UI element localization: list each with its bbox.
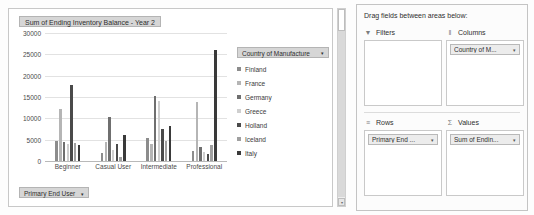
- vertical-scrollbar[interactable]: ▾: [337, 8, 346, 207]
- bar[interactable]: [105, 142, 107, 161]
- y-axis-tick-label: 20000: [9, 72, 41, 79]
- legend-item-label: Germany: [245, 94, 272, 101]
- legend-item-label: Iceland: [245, 136, 266, 143]
- chevron-down-icon: ▾: [321, 48, 324, 59]
- chevron-down-icon[interactable]: ▾: [513, 47, 516, 53]
- y-axis-labels: 050001000015000200002500030000: [9, 33, 43, 161]
- bar-group: [136, 33, 182, 161]
- field-chip[interactable]: Sum of Endin...▾: [450, 134, 520, 145]
- bar[interactable]: [119, 157, 121, 161]
- legend-field-button[interactable]: ▾ Country of Manufacture: [237, 47, 329, 58]
- bar[interactable]: [192, 151, 194, 161]
- bar[interactable]: [214, 50, 216, 161]
- chart-row-field-button[interactable]: Primary End User ▾: [19, 187, 89, 198]
- bar[interactable]: [161, 129, 163, 161]
- bar[interactable]: [158, 101, 160, 161]
- bar[interactable]: [196, 102, 198, 161]
- drop-area-values[interactable]: ΣValuesSum of Endin...▾: [446, 117, 524, 197]
- field-chip-label: Country of M...: [454, 46, 510, 53]
- chart-legend: ▾ Country of Manufacture FinlandFranceGe…: [237, 47, 329, 160]
- legend-item-label: Greece: [245, 108, 266, 115]
- sigma-icon: Σ: [446, 119, 454, 127]
- drop-area-box[interactable]: Country of M...▾: [446, 40, 524, 106]
- drop-area-header: ▼Filters: [364, 27, 442, 38]
- y-axis-tick-label: 25000: [9, 51, 41, 58]
- legend-item-list: FinlandFranceGermanyGreeceHollandIceland…: [237, 62, 329, 160]
- pivotchart-pane: Sum of Ending Inventory Balance - Year 2…: [8, 8, 333, 207]
- x-axis-tick-label: Intermediate: [141, 163, 177, 170]
- columns-icon: ‖: [446, 29, 454, 37]
- bar[interactable]: [78, 145, 80, 161]
- x-axis-tick-label: Professional: [186, 163, 222, 170]
- legend-item: Holland: [237, 118, 329, 132]
- y-axis-tick-label: 10000: [9, 115, 41, 122]
- bar[interactable]: [210, 145, 212, 161]
- bar[interactable]: [74, 143, 76, 161]
- scrollbar-thumb[interactable]: [338, 9, 345, 31]
- drop-areas: ▼Filters‖ColumnsCountry of M...▾≡RowsPri…: [364, 27, 520, 203]
- chart-value-field-button[interactable]: Sum of Ending Inventory Balance - Year 2: [19, 16, 161, 27]
- scrollbar-track[interactable]: [338, 31, 345, 197]
- bar[interactable]: [70, 85, 72, 161]
- drop-area-columns[interactable]: ‖ColumnsCountry of M...▾: [446, 27, 524, 107]
- field-chip[interactable]: Primary End ...▾: [368, 134, 438, 145]
- drop-area-header: ≡Rows: [364, 117, 442, 128]
- legend-swatch-icon: [237, 95, 241, 99]
- bar[interactable]: [154, 96, 156, 161]
- bar[interactable]: [63, 142, 65, 161]
- legend-item-label: Italy: [245, 150, 257, 157]
- bar[interactable]: [101, 153, 103, 161]
- bar[interactable]: [67, 144, 69, 161]
- field-chip-label: Sum of Endin...: [454, 136, 510, 143]
- legend-swatch-icon: [237, 151, 241, 155]
- drop-area-rows[interactable]: ≡RowsPrimary End ...▾: [364, 117, 442, 197]
- legend-item: Greece: [237, 104, 329, 118]
- drop-area-box[interactable]: [364, 40, 442, 106]
- bar-group: [45, 33, 91, 161]
- bar[interactable]: [55, 141, 57, 161]
- chart-row-field-label: Primary End User: [24, 190, 75, 197]
- legend-swatch-icon: [237, 137, 241, 141]
- field-chip[interactable]: Country of M...▾: [450, 44, 520, 55]
- legend-item-label: Finland: [245, 66, 266, 73]
- bar-groups: [45, 33, 227, 161]
- legend-item-label: Holland: [245, 122, 267, 129]
- y-axis-tick-label: 30000: [9, 30, 41, 37]
- legend-item: France: [237, 76, 329, 90]
- drop-area-box[interactable]: Sum of Endin...▾: [446, 130, 524, 196]
- x-axis-tick-label: Casual User: [95, 163, 131, 170]
- bar[interactable]: [123, 135, 125, 161]
- chevron-down-icon[interactable]: ▾: [513, 137, 516, 143]
- pivotchart-screen: Sum of Ending Inventory Balance - Year 2…: [0, 0, 534, 215]
- scroll-down-button[interactable]: ▾: [338, 198, 345, 206]
- bar[interactable]: [116, 144, 118, 161]
- x-axis-tick-label: Beginner: [55, 163, 81, 170]
- bar-group: [91, 33, 137, 161]
- bar[interactable]: [207, 154, 209, 161]
- bar[interactable]: [165, 141, 167, 161]
- legend-item: Finland: [237, 62, 329, 76]
- drop-area-filters[interactable]: ▼Filters: [364, 27, 442, 107]
- bar[interactable]: [203, 152, 205, 161]
- bar-group: [182, 33, 228, 161]
- filter-funnel-icon: ▼: [364, 29, 372, 37]
- legend-swatch-icon: [237, 109, 241, 113]
- bar[interactable]: [146, 138, 148, 161]
- y-axis-tick-label: 5000: [9, 136, 41, 143]
- x-axis-labels: BeginnerCasual UserIntermediateProfessio…: [45, 163, 227, 175]
- y-axis-tick-label: 15000: [9, 94, 41, 101]
- y-axis-tick-label: 0: [9, 158, 41, 165]
- drop-area-header: ‖Columns: [446, 27, 524, 38]
- legend-item: Iceland: [237, 132, 329, 146]
- legend-swatch-icon: [237, 81, 241, 85]
- drop-area-box[interactable]: Primary End ...▾: [364, 130, 442, 196]
- bar[interactable]: [169, 126, 171, 161]
- legend-item: Italy: [237, 146, 329, 160]
- bar[interactable]: [150, 144, 152, 161]
- bar[interactable]: [112, 150, 114, 161]
- bar[interactable]: [108, 117, 110, 161]
- field-chip-label: Primary End ...: [372, 136, 428, 143]
- chevron-down-icon[interactable]: ▾: [431, 137, 434, 143]
- bar[interactable]: [59, 109, 61, 161]
- bar[interactable]: [199, 147, 201, 161]
